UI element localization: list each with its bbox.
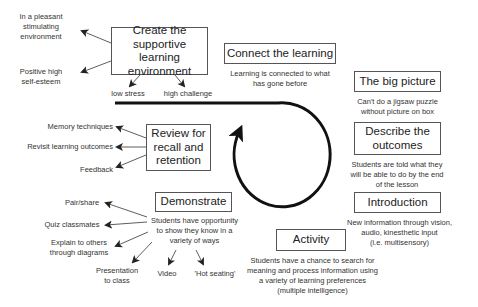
create-outcome-esteem: Positive high self-esteem	[2, 67, 80, 87]
stage-review-box: Review for recall and retention	[146, 124, 211, 171]
review-outcome-memory: Memory techniques	[10, 122, 113, 132]
stage-create-title-2: supportive learning	[112, 38, 207, 65]
stage-activity-title: Activity	[293, 233, 329, 247]
stage-bigpicture-box: The big picture	[354, 71, 441, 92]
demonstrate-outcome-presentation: Presentation to class	[92, 266, 142, 286]
stage-describe-box: Describe the outcomes	[354, 122, 441, 155]
stage-bigpicture-description: Can't do a jigsaw puzzle without picture…	[340, 97, 455, 117]
stage-review-title-3: retention	[151, 154, 205, 168]
demonstrate-outcome-quiz: Quiz classmates	[40, 220, 104, 230]
arrow-video	[169, 250, 176, 264]
stage-introduction-description: New information through vision, audio, k…	[337, 218, 462, 248]
stage-connect-title: Connect the learning	[227, 47, 333, 61]
stage-create-title-3: environment	[112, 65, 207, 79]
create-outcome-pleasant: In a pleasant stimulating environment	[2, 12, 80, 42]
arrow-quiz	[106, 222, 147, 225]
stage-demonstrate-title: Demonstrate	[161, 195, 227, 209]
stage-introduction-title: Introduction	[367, 196, 427, 210]
arrow-esteem	[82, 61, 111, 72]
stage-review-title-2: recall and	[151, 141, 205, 155]
arrow-feedback	[117, 155, 146, 167]
stage-connect-box: Connect the learning	[224, 43, 336, 64]
arrow-memory	[117, 127, 146, 138]
stage-connect-description: Learning is connected to what has gone b…	[220, 69, 340, 89]
create-outcome-low-stress: low stress	[108, 89, 148, 99]
demonstrate-outcome-pair-share: Pair/share	[60, 198, 104, 208]
stage-introduction-box: Introduction	[354, 192, 441, 213]
stage-demonstrate-box: Demonstrate	[155, 192, 232, 212]
stage-activity-box: Activity	[276, 229, 346, 251]
arrow-pleasant	[82, 31, 111, 43]
stage-describe-description: Students are told what they will be able…	[337, 160, 457, 190]
stage-create-title-1: Create the	[112, 24, 207, 38]
review-outcome-feedback: Feedback	[30, 165, 113, 175]
stage-activity-description: Students have a chance to search for mea…	[240, 256, 385, 296]
stage-bigpicture-title: The big picture	[359, 75, 435, 89]
stage-describe-title-1: Describe the	[365, 125, 430, 139]
stage-create-box: Create the supportive learning environme…	[111, 27, 208, 75]
arrow-hot-seating	[196, 250, 203, 264]
stage-demonstrate-description: Students have opportunity to show they k…	[146, 216, 243, 246]
demonstrate-outcome-explain: Explain to others through diagrams	[44, 238, 114, 258]
create-outcome-high-challenge: high challenge	[162, 89, 214, 99]
stage-review-title-1: Review for	[151, 127, 205, 141]
stage-describe-title-2: outcomes	[365, 139, 430, 153]
demonstrate-outcome-video: Video	[152, 269, 182, 279]
demonstrate-outcome-hot-seating: 'Hot seating'	[188, 269, 242, 279]
arrow-pair-share	[106, 203, 147, 217]
arrow-explain	[116, 232, 148, 246]
review-outcome-revisit: Revisit learning outcomes	[2, 142, 113, 152]
